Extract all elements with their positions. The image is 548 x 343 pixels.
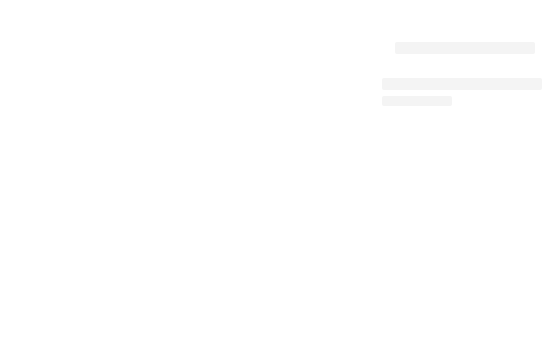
trace-canvas bbox=[0, 0, 548, 343]
kymograph-figure bbox=[0, 0, 548, 343]
